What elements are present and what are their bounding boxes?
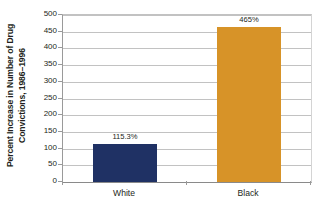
y-axis-tick-label: 400: [33, 43, 57, 51]
x-axis-tick-mark: [310, 181, 311, 185]
y-axis-tick-label: 450: [33, 27, 57, 35]
y-axis-tick-label: 500: [33, 10, 57, 18]
y-axis-title-line-1: Percent Increase in Number of Drug: [6, 23, 18, 166]
x-axis-category-label: Black: [237, 188, 258, 199]
y-axis-tick-labels: 500450400350300250200150100500: [33, 0, 57, 190]
y-axis-tick-label: 200: [33, 110, 57, 118]
x-axis-category-labels: WhiteBlack: [62, 188, 312, 204]
y-axis-tick-label: 350: [33, 60, 57, 68]
bar-group: 115.3%: [93, 15, 157, 182]
y-axis-title-line-2: Convictions, 1986–1996: [17, 23, 29, 166]
x-axis-tick-mark: [186, 181, 187, 185]
y-axis-tick-label: 250: [33, 94, 57, 102]
y-axis-tick-label: 100: [33, 144, 57, 152]
y-axis-tick-label: 150: [33, 127, 57, 135]
y-axis-title: Percent Increase in Number of Drug Convi…: [0, 0, 34, 190]
bar-black[interactable]: [217, 27, 281, 182]
y-axis-tick-label: 50: [33, 160, 57, 168]
bar-group: 465%: [217, 15, 281, 182]
x-axis-category-label: White: [113, 188, 135, 199]
bars-layer: 115.3%465%: [63, 15, 311, 182]
y-axis-tick-label: 300: [33, 77, 57, 85]
bar-white[interactable]: [93, 144, 157, 183]
plot-area: 115.3%465%: [62, 14, 312, 183]
bar-chart: Percent Increase in Number of Drug Convi…: [0, 0, 328, 208]
x-axis-tick-marks: [62, 181, 312, 186]
bar-value-label: 115.3%: [112, 133, 137, 141]
y-axis-tick-label: 0: [33, 177, 57, 185]
bar-value-label: 465%: [239, 16, 258, 24]
x-axis-tick-mark: [62, 181, 63, 185]
